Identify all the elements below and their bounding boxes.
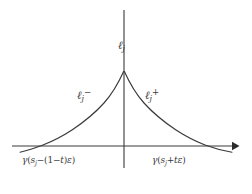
cusp-curve-right-branch — [124, 72, 232, 153]
plus-sign: + — [167, 155, 174, 165]
ell-superscript-minus: − — [84, 87, 91, 97]
close-paren: ) — [72, 155, 75, 165]
label-ell-j: ℓj — [118, 40, 125, 53]
ell-superscript-plus: + — [152, 87, 159, 97]
label-gamma-left-endpoint: γ(sj−(1−t)ε) — [22, 156, 75, 166]
figure-canvas: ℓj ℓj− ℓj+ γ(sj−(1−t)ε) γ(sj+tε) — [0, 0, 252, 194]
label-gamma-right-endpoint: γ(sj+tε) — [152, 156, 185, 166]
label-ell-j-plus: ℓj+ — [145, 88, 159, 103]
ell-subscript: j — [123, 44, 125, 53]
label-ell-j-minus: ℓj− — [77, 88, 91, 103]
cusp-curve-left-branch — [20, 72, 124, 153]
horizontal-axis-arrowhead — [232, 142, 240, 150]
minus-group: −(1− — [37, 155, 61, 165]
close-paren: ) — [182, 155, 185, 165]
